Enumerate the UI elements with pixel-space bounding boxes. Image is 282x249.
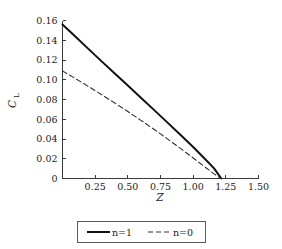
y-tick-label: 0.02 bbox=[36, 153, 57, 164]
y-tick-label: 0.14 bbox=[36, 35, 57, 46]
y-tick-label: 0.04 bbox=[36, 133, 57, 144]
x-tick-label: 1.50 bbox=[248, 181, 269, 192]
y-axis-title-subscript: L bbox=[13, 93, 21, 98]
y-tick-label: 0.06 bbox=[36, 114, 57, 125]
axes-group bbox=[63, 21, 259, 179]
y-tick-labels: 00.020.040.060.080.100.120.140.16 bbox=[36, 15, 57, 184]
x-tick-label: 1.25 bbox=[215, 181, 236, 192]
y-tick-label: 0.16 bbox=[36, 15, 57, 26]
x-tick-label: 0.25 bbox=[85, 181, 106, 192]
series-group bbox=[63, 24, 222, 178]
y-tick-label: 0.12 bbox=[36, 54, 57, 65]
figure-container: 00.020.040.060.080.100.120.140.16 0.250.… bbox=[0, 0, 282, 249]
y-tick-label: 0 bbox=[51, 173, 57, 184]
x-tick-label: 0.50 bbox=[117, 181, 138, 192]
line-chart: 00.020.040.060.080.100.120.140.16 0.250.… bbox=[0, 0, 282, 249]
series-line-n1 bbox=[63, 24, 222, 178]
series-line-n0 bbox=[63, 71, 222, 179]
x-tick-label: 1.00 bbox=[183, 181, 204, 192]
y-axis-title-text: C bbox=[6, 100, 18, 108]
y-axis-title: C L bbox=[6, 93, 21, 108]
x-tick-labels: 0.250.500.751.001.251.50 bbox=[85, 181, 269, 192]
y-tick-label: 0.08 bbox=[36, 94, 57, 105]
x-axis-title-text: Z bbox=[155, 191, 164, 203]
x-tick-marks bbox=[63, 175, 259, 179]
y-tick-label: 0.10 bbox=[36, 74, 57, 85]
legend-label-n0: n=0 bbox=[173, 227, 193, 238]
legend-label-n1: n=1 bbox=[112, 227, 132, 238]
y-tick-marks bbox=[63, 21, 67, 179]
legend: n=1 n=0 bbox=[78, 222, 206, 243]
